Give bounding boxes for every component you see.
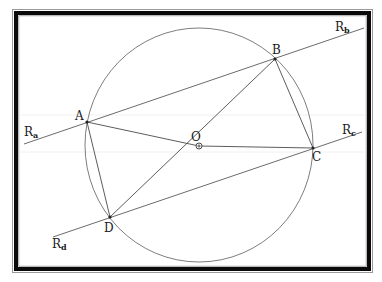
label-c: C xyxy=(312,150,321,164)
label-d: D xyxy=(104,221,114,235)
svg-text:d: d xyxy=(61,242,67,252)
svg-text:a: a xyxy=(33,130,38,140)
geometry-diagram: A B C D O R a R b R c R d xyxy=(0,0,382,282)
svg-text:c: c xyxy=(351,128,356,138)
label-o: O xyxy=(191,130,201,144)
svg-text:b: b xyxy=(344,25,350,35)
point-d xyxy=(108,215,111,218)
label-a: A xyxy=(74,109,84,123)
point-b xyxy=(273,57,276,60)
label-b: B xyxy=(272,43,281,57)
point-a xyxy=(85,120,88,123)
